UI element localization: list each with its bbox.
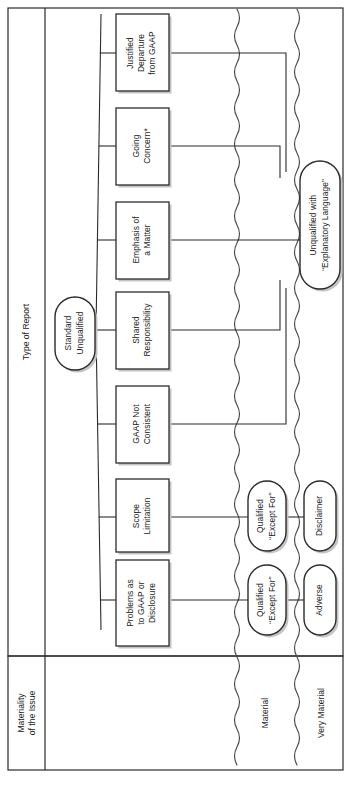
row-header-type-of-report: Type of Report bbox=[21, 303, 31, 360]
node-qualified-except-for-scope[interactable]: Qualified “Except For” bbox=[248, 481, 289, 554]
box-label-line2: Responsibility bbox=[142, 303, 152, 357]
link-gaap-not-consistent-to-unqualified-explanatory bbox=[170, 288, 286, 424]
box-problems-as-to-gaap-or-disclosure[interactable]: Problems as to GAAP or Disclosure bbox=[116, 560, 172, 649]
node-label-line1: Adverse bbox=[314, 584, 324, 616]
materiality-label-very-material: Very Material bbox=[316, 688, 326, 738]
diagram-canvas: Type of Report Materiality of the Issue … bbox=[0, 0, 354, 786]
node-label-line2: “Except For” bbox=[267, 576, 277, 623]
box-label-line2: to GAAP or bbox=[136, 581, 146, 624]
box-label-line1: Justified bbox=[125, 37, 135, 69]
row-header-labels: Type of Report Materiality of the Issue bbox=[16, 303, 37, 735]
node-label-line2: Unqualified bbox=[75, 311, 85, 354]
link-justified-to-unqualified-explanatory bbox=[170, 53, 286, 172]
box-label-line2: Concern* bbox=[142, 128, 152, 164]
row-header-materiality-line2: of the Issue bbox=[27, 691, 37, 736]
node-label-line1: Qualified bbox=[255, 583, 265, 617]
box-label-line1: GAAP Not bbox=[131, 404, 141, 444]
materiality-column-labels: Material Very Material bbox=[260, 688, 326, 738]
box-label-line2: Limitation bbox=[142, 497, 152, 534]
node-label-line2: “Except For” bbox=[267, 492, 277, 539]
box-label-line2: Consistent bbox=[142, 403, 152, 444]
box-label-line3: from GAAP bbox=[147, 31, 157, 75]
materiality-row bbox=[8, 656, 343, 770]
node-label-line1: Disclaimer bbox=[314, 496, 324, 536]
box-label-line1: Shared bbox=[131, 316, 141, 344]
box-label-line1: Emphasis of bbox=[131, 216, 141, 264]
link-shared-resp-to-unqualified-explanatory bbox=[170, 280, 280, 330]
link-going-concern-to-unqualified-explanatory bbox=[170, 146, 280, 178]
node-disclaimer[interactable]: Disclaimer bbox=[304, 481, 339, 554]
materiality-label-material: Material bbox=[260, 698, 270, 729]
box-label-line1: Going bbox=[131, 134, 141, 157]
column-separator-very-material bbox=[295, 9, 300, 765]
node-qualified-except-for-gaap[interactable]: Qualified “Except For” bbox=[248, 565, 289, 638]
node-label-line2: “Explanatory Language” bbox=[320, 179, 330, 271]
box-emphasis-of-a-matter[interactable]: Emphasis of a Matter bbox=[116, 202, 172, 282]
box-label-line1: Scope bbox=[131, 504, 141, 528]
table-frame bbox=[8, 8, 343, 770]
node-label-line1: Unqualified with bbox=[308, 194, 318, 255]
box-label-line2: Departure bbox=[136, 34, 146, 72]
box-scope-limitation[interactable]: Scope Limitation bbox=[116, 479, 172, 555]
node-label-line1: Standard bbox=[63, 315, 73, 350]
column-separator-material bbox=[235, 9, 240, 765]
box-justified-departure-from-gaap[interactable]: Justified Departure from GAAP bbox=[116, 14, 172, 94]
box-label-line3: Disclosure bbox=[147, 583, 157, 623]
node-adverse[interactable]: Adverse bbox=[304, 565, 339, 638]
row-header-materiality-line1: Materiality bbox=[16, 693, 26, 733]
box-going-concern[interactable]: Going Concern* bbox=[116, 108, 172, 188]
node-label-line1: Qualified bbox=[255, 499, 265, 533]
box-shared-responsibility[interactable]: Shared Responsibility bbox=[116, 292, 172, 372]
node-unqualified-with-explanatory-language[interactable]: Unqualified with “Explanatory Language” bbox=[300, 161, 343, 292]
box-gaap-not-consistent[interactable]: GAAP Not Consistent bbox=[116, 386, 172, 466]
box-label-line2: a Matter bbox=[142, 224, 152, 256]
box-label-line1: Problems as bbox=[125, 579, 135, 627]
audit-report-matrix-diagram: Type of Report Materiality of the Issue … bbox=[0, 0, 354, 786]
node-standard-unqualified[interactable]: Standard Unqualified bbox=[55, 297, 98, 373]
